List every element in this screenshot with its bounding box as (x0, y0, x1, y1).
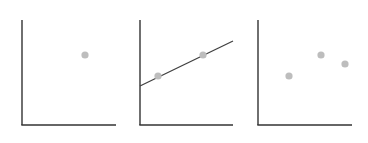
fit-line (140, 41, 233, 86)
data-point (154, 72, 161, 79)
diagram-canvas (0, 0, 368, 143)
data-point (199, 51, 206, 58)
data-point (341, 60, 348, 67)
data-point (285, 72, 292, 79)
data-point (81, 51, 88, 58)
scatter-panel-3 (257, 20, 352, 125)
data-point (317, 51, 324, 58)
scatter-panel-2 (139, 20, 233, 125)
scatter-panel-1 (21, 20, 116, 125)
